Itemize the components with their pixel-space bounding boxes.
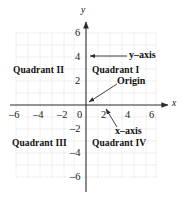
y-axis-callout-label: y–axis	[129, 50, 156, 60]
tick-label-x-neg4: –4	[33, 110, 44, 121]
tick-label-y-pos4: 4	[75, 52, 80, 63]
tick-label-y-pos6: 6	[75, 28, 80, 39]
x-axis-name: x	[172, 99, 176, 109]
tick-label-y-neg2: –2	[70, 124, 81, 135]
quadrant-label-4: Quadrant IV	[92, 139, 146, 149]
tick-label-y-neg6: –6	[70, 172, 81, 183]
tick-label-y-neg4: –4	[70, 148, 81, 159]
quadrant-label-2: Quadrant II	[13, 66, 64, 76]
tick-label-x-neg2: –2	[57, 110, 68, 121]
y-axis-name: y	[81, 6, 85, 16]
coordinate-plane-figure: y x –6 –4 –2 0 2 4 6 6 4 2 –2 –4 –6 Quad…	[0, 0, 185, 199]
tick-label-x-pos4: 4	[125, 110, 130, 121]
x-axis-callout-label: x–axis	[115, 126, 142, 136]
origin-callout-label: Origin	[117, 76, 145, 86]
quadrant-label-3: Quadrant III	[12, 139, 67, 149]
coordinate-plane-svg	[0, 0, 185, 199]
tick-label-origin: 0	[77, 110, 82, 121]
tick-label-x-pos2: 2	[101, 110, 106, 121]
tick-label-x-neg6: –6	[9, 110, 20, 121]
tick-label-y-pos2: 2	[75, 76, 80, 87]
tick-label-x-pos6: 6	[149, 110, 154, 121]
